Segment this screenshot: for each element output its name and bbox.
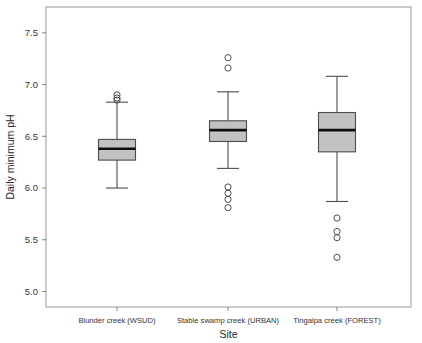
outlier-point xyxy=(225,196,231,202)
y-tick-label: 7.0 xyxy=(25,79,38,90)
outlier-point xyxy=(225,65,231,71)
x-axis-title: Site xyxy=(219,328,237,340)
y-tick-label: 6.0 xyxy=(25,182,38,193)
x-axis-ticks: Blunder creek (WSUD)Stable swamp creek (… xyxy=(78,307,381,325)
outlier-point xyxy=(334,215,340,221)
y-tick-label: 5.5 xyxy=(25,234,38,245)
outlier-point xyxy=(334,235,340,241)
plot-canvas: 5.05.56.06.57.07.5 Blunder creek (WSUD)S… xyxy=(0,0,422,343)
y-tick-label: 6.5 xyxy=(25,131,38,142)
box-plot-series xyxy=(99,55,356,261)
x-category-label: Blunder creek (WSUD) xyxy=(78,316,156,325)
y-axis-ticks: 5.05.56.06.57.07.5 xyxy=(25,27,46,297)
outlier-point xyxy=(225,55,231,61)
outlier-point xyxy=(334,254,340,260)
box-iqr-rect xyxy=(319,113,356,152)
x-category-label: Stable swamp creek (URBAN) xyxy=(177,316,280,325)
box-plot-2 xyxy=(210,55,247,211)
outlier-point xyxy=(225,205,231,211)
boxplot-chart: 5.05.56.06.57.07.5 Blunder creek (WSUD)S… xyxy=(0,0,422,343)
outlier-point xyxy=(225,190,231,196)
box-plot-3 xyxy=(319,76,356,260)
x-category-label: Tingalpa creek (FOREST) xyxy=(293,316,381,325)
y-tick-label: 5.0 xyxy=(25,286,38,297)
box-plot-1 xyxy=(99,92,136,188)
y-axis-title: Daily minimum pH xyxy=(4,114,16,199)
outlier-point xyxy=(334,228,340,234)
y-tick-label: 7.5 xyxy=(25,27,38,38)
outlier-point xyxy=(225,184,231,190)
